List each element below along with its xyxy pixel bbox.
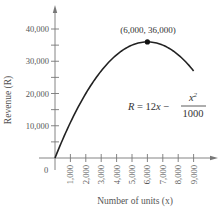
x-tick-label: 6,000 xyxy=(142,165,152,184)
y-tick-label: 10,000 xyxy=(26,121,49,131)
equation-lhs: R = 12x − xyxy=(127,101,169,112)
equation-eq: = 12 xyxy=(134,101,156,112)
x-tick-label: 5,000 xyxy=(127,165,137,184)
x-tick-label: 3,000 xyxy=(96,165,106,184)
ticks: 1,0002,0003,0004,0005,0006,0007,0008,000… xyxy=(26,24,199,184)
x-tick-label: 1,000 xyxy=(65,165,75,184)
equation-denominator: 1000 xyxy=(183,108,204,119)
y-axis-title-var: (R) xyxy=(3,76,14,89)
revenue-curve xyxy=(55,42,194,158)
equation-num-exp: 2 xyxy=(194,91,198,99)
equation-numerator: x2 xyxy=(188,91,198,103)
x-axis-title: Number of units (x) xyxy=(97,196,173,207)
x-tick-label: 8,000 xyxy=(173,165,183,184)
equation-annotation: R = 12x − x2 1000 xyxy=(127,91,206,119)
x-tick-label: 9,000 xyxy=(189,165,199,184)
peak-point-marker xyxy=(145,39,150,44)
x-axis-title-var: (x) xyxy=(162,196,173,207)
x-tick-label: 4,000 xyxy=(112,165,122,184)
origin-label: 0 xyxy=(44,165,48,175)
x-tick-label: 2,000 xyxy=(81,165,91,184)
x-axis-title-text: Number of units xyxy=(97,196,160,206)
x-tick-label: 7,000 xyxy=(158,165,168,184)
y-tick-label: 40,000 xyxy=(26,24,49,34)
x-axis-arrow-icon xyxy=(210,156,218,160)
y-axis-title: Revenue (R) xyxy=(3,76,14,124)
y-axis-arrow-icon xyxy=(53,5,57,13)
equation-minus: − xyxy=(161,101,170,112)
revenue-chart: 1,0002,0003,0004,0005,0006,0007,0008,000… xyxy=(0,0,222,211)
y-axis-title-text: Revenue xyxy=(3,91,13,124)
y-tick-label: 20,000 xyxy=(26,89,49,99)
peak-point-label: (6,000, 36,000) xyxy=(120,25,176,35)
y-tick-label: 30,000 xyxy=(26,56,49,66)
